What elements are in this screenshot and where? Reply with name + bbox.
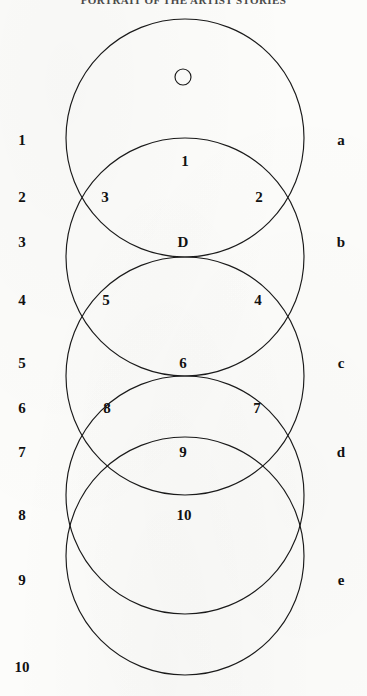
left-scale-label-6: 6	[18, 401, 26, 416]
circle-e	[66, 437, 304, 675]
region-label-D: D	[178, 235, 189, 250]
right-scale-label-b: b	[337, 235, 345, 250]
circle-chain-diagram	[0, 0, 367, 696]
region-label-3: 3	[101, 190, 109, 205]
region-label-8: 8	[103, 401, 111, 416]
left-scale-label-5: 5	[18, 356, 26, 371]
left-scale-label-4: 4	[18, 293, 26, 308]
region-label-4: 4	[254, 293, 262, 308]
region-label-5: 5	[102, 293, 110, 308]
page-canvas: PORTRAIT OF THE ARTIST STORIES 123456789…	[0, 0, 367, 696]
small-circle-group	[175, 69, 191, 85]
right-scale-label-c: c	[338, 356, 345, 371]
left-scale-label-8: 8	[18, 508, 26, 523]
right-scale-label-e: e	[338, 573, 345, 588]
right-scale-label-d: d	[337, 445, 345, 460]
left-scale-label-10: 10	[15, 660, 30, 675]
region-label-6: 6	[179, 356, 187, 371]
left-scale-label-3: 3	[18, 235, 26, 250]
small-circle-marker	[175, 69, 191, 85]
left-scale-label-1: 1	[18, 133, 26, 148]
right-scale-label-a: a	[337, 133, 345, 148]
left-scale-label-7: 7	[18, 445, 26, 460]
left-scale-label-9: 9	[18, 573, 26, 588]
region-label-7: 7	[253, 401, 261, 416]
left-scale-label-2: 2	[18, 190, 26, 205]
circles-group	[66, 19, 304, 675]
region-label-9: 9	[179, 445, 187, 460]
region-label-10: 10	[177, 508, 192, 523]
region-label-2: 2	[255, 190, 263, 205]
region-label-1: 1	[181, 154, 189, 169]
